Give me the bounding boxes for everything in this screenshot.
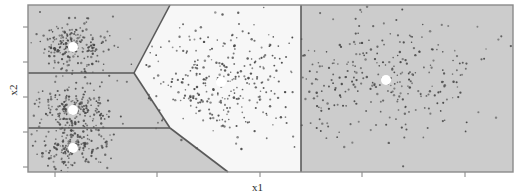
data-point (202, 66, 204, 68)
data-point (405, 128, 407, 130)
data-point (105, 145, 107, 147)
data-point (53, 55, 55, 57)
data-point (510, 45, 512, 47)
data-point (216, 120, 218, 122)
data-point (382, 61, 384, 63)
data-point (224, 69, 226, 71)
data-point (209, 112, 211, 114)
data-point (388, 61, 390, 63)
data-point (439, 91, 441, 93)
data-point (332, 18, 334, 20)
data-point (244, 65, 246, 67)
data-point (149, 65, 151, 67)
data-point (48, 107, 50, 109)
data-point (66, 148, 68, 150)
data-point (234, 92, 236, 94)
data-point (52, 41, 54, 43)
data-point (277, 45, 279, 47)
data-point (236, 37, 238, 39)
data-point (235, 76, 237, 78)
data-point (361, 72, 363, 74)
data-point (60, 68, 62, 70)
data-point (65, 37, 67, 39)
data-point (92, 50, 94, 52)
data-point (92, 120, 94, 122)
data-point (74, 162, 76, 164)
data-point (229, 107, 231, 109)
data-point (97, 147, 99, 149)
data-point (227, 73, 229, 75)
data-point (397, 34, 399, 36)
data-point (96, 55, 98, 57)
data-point (205, 77, 207, 79)
data-point (255, 107, 257, 109)
data-point (483, 58, 485, 60)
data-point (361, 42, 363, 44)
data-point (90, 130, 92, 132)
data-point (426, 95, 428, 97)
data-point (63, 148, 65, 150)
data-point (218, 74, 220, 76)
data-point (399, 51, 401, 53)
data-point (262, 111, 264, 113)
data-point (204, 60, 207, 63)
data-point (452, 73, 454, 75)
data-point (66, 23, 68, 25)
data-point (236, 125, 238, 127)
data-point (84, 115, 86, 117)
data-point (91, 63, 93, 65)
data-point (101, 81, 103, 83)
data-point (194, 38, 196, 40)
data-point (381, 39, 383, 41)
data-point (64, 90, 66, 92)
data-point (302, 55, 304, 57)
data-point (65, 104, 67, 106)
data-point (211, 114, 213, 116)
data-point (65, 164, 67, 166)
data-point (263, 7, 265, 9)
data-point (30, 42, 32, 44)
data-point (238, 75, 240, 77)
data-point (83, 22, 85, 24)
data-point (151, 46, 153, 48)
data-point (59, 123, 61, 125)
data-point (66, 113, 68, 115)
data-point (97, 129, 99, 131)
data-point (359, 53, 361, 55)
data-point (465, 62, 467, 64)
data-point (349, 43, 351, 45)
data-point (106, 114, 108, 116)
data-point (272, 55, 274, 57)
data-point (145, 64, 147, 66)
data-point (209, 49, 211, 51)
data-point (443, 72, 445, 74)
data-point (87, 46, 89, 48)
right-region (301, 5, 513, 172)
data-point (247, 77, 249, 79)
data-point (234, 48, 236, 50)
data-point (256, 76, 258, 78)
data-point (86, 64, 88, 66)
data-point (63, 161, 65, 163)
data-point (182, 50, 184, 52)
data-point (401, 85, 403, 87)
data-point (34, 141, 36, 143)
data-point (437, 44, 439, 46)
data-point (68, 140, 70, 142)
data-point (240, 148, 242, 150)
data-point (270, 90, 272, 92)
data-point (36, 153, 38, 155)
data-point (73, 39, 75, 41)
data-point (49, 157, 51, 159)
data-point (349, 123, 351, 125)
data-point (265, 91, 267, 93)
data-point (227, 98, 229, 100)
data-point (168, 40, 170, 42)
data-point (401, 8, 403, 10)
data-point (402, 98, 404, 100)
data-point (200, 26, 202, 28)
data-point (223, 65, 225, 67)
data-point (74, 17, 76, 19)
data-point (402, 58, 404, 60)
data-point (236, 136, 239, 139)
